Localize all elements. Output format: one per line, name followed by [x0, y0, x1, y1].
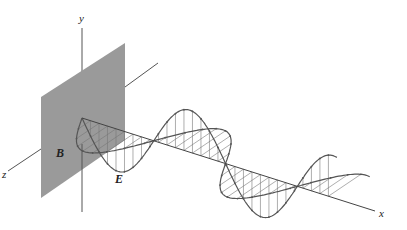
z-axis-back [125, 63, 158, 87]
z-axis-label: z [1, 168, 7, 180]
b-field-vector [192, 131, 225, 153]
b-field-label: B [55, 146, 64, 160]
em-wave-diagram: y x z B E [0, 0, 407, 230]
e-field-label: E [114, 172, 123, 186]
b-field-vector [222, 172, 252, 192]
y-axis-label: y [78, 12, 84, 24]
x-axis-label: x [378, 207, 384, 219]
b-field-vector [201, 136, 230, 156]
z-axis-front [8, 149, 41, 171]
